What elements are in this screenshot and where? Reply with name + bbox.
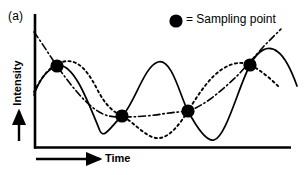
axis-direction-arrows — [19, 111, 100, 159]
legend-label: = Sampling point — [186, 12, 276, 26]
legend-filled-circle-icon — [169, 14, 182, 27]
y-axis-label: Intensity — [11, 53, 23, 113]
figure-canvas — [0, 0, 307, 175]
sampling-point-marker — [181, 104, 194, 117]
sampling-point-marker — [115, 109, 128, 122]
axis-frame — [34, 14, 291, 149]
sampling-point-marker — [243, 58, 256, 71]
legend — [169, 14, 182, 27]
sampling-aliasing-figure: (a) = Sampling point Intensity Time — [0, 0, 307, 175]
panel-label: (a) — [8, 9, 23, 23]
signal-curves — [34, 29, 297, 140]
sampling-point-marker — [50, 59, 63, 72]
x-axis-label: Time — [105, 152, 130, 164]
